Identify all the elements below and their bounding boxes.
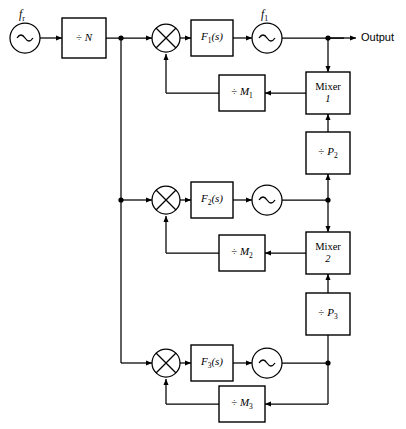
filter1-label: F1(s) (191, 20, 233, 56)
junction-dot-bus-row2 (118, 197, 123, 202)
divide-m1-label: ÷ M1 (219, 75, 265, 111)
filter2-label: F2(s) (191, 182, 233, 218)
divide-m2-label: ÷ M2 (219, 235, 265, 271)
mixer1-label: Mixer 1 (306, 72, 350, 114)
junction-dot-vco2-tee (325, 197, 330, 202)
divide-p3-label: ÷ P3 (306, 293, 350, 335)
block-diagram-canvas: fr f1 ÷ N F1(s) ÷ M1 Mixer 1 ÷ P2 F2(s) … (0, 0, 406, 429)
junction-dot-divn-tap (118, 35, 123, 40)
divide-p2-label: ÷ P2 (306, 132, 350, 174)
mixer2-label: Mixer 2 (306, 232, 350, 274)
divide-n-label: ÷ N (62, 18, 106, 58)
divide-m3-label: ÷ M3 (219, 386, 265, 422)
junction-dot-output-tee (325, 35, 330, 40)
filter3-label: F3(s) (191, 345, 233, 381)
junction-dot-vco3-tee (325, 360, 330, 365)
